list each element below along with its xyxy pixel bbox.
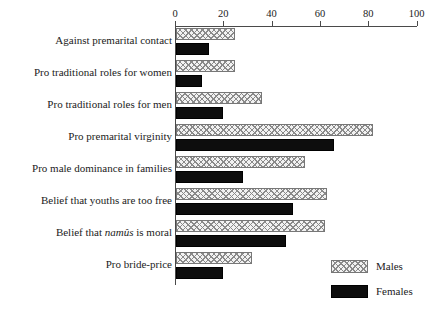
- legend-swatch-males-icon: [331, 260, 368, 273]
- bar-females: [176, 43, 209, 55]
- bar-males: [176, 156, 305, 168]
- bar-group: Belief that namûs is moral: [0, 218, 426, 250]
- category-label: Pro male dominance in families: [0, 161, 172, 175]
- bar-group: Belief that youths are too free: [0, 186, 426, 218]
- category-label: Pro traditional roles for women: [0, 65, 172, 79]
- x-tick-label-0: 0: [172, 8, 177, 20]
- bar-females: [176, 75, 202, 87]
- category-label: Belief that namûs is moral: [0, 225, 172, 239]
- x-tick-label-60: 60: [315, 8, 326, 20]
- bar-group: Pro premarital virginity: [0, 122, 426, 154]
- x-tick-label-20: 20: [218, 8, 229, 20]
- bar-males: [176, 92, 262, 104]
- bar-females: [176, 203, 293, 215]
- category-label: Pro bride-price: [0, 257, 172, 271]
- x-tick-label-40: 40: [266, 8, 277, 20]
- bar-females: [176, 107, 223, 119]
- x-tick-label-80: 80: [363, 8, 374, 20]
- category-label: Against premarital contact: [0, 33, 172, 47]
- category-label: Belief that youths are too free: [0, 193, 172, 207]
- legend: Males Females: [331, 259, 426, 309]
- legend-item-females: Females: [331, 284, 426, 301]
- category-label: Pro traditional roles for men: [0, 97, 172, 111]
- legend-item-males: Males: [331, 259, 426, 276]
- x-tick-label-100: 100: [409, 8, 425, 20]
- bar-males: [176, 124, 373, 136]
- horizontal-bar-chart: 020406080100 Against premarital contactP…: [0, 0, 426, 312]
- bar-females: [176, 171, 243, 183]
- bar-group: Against premarital contact: [0, 26, 426, 58]
- legend-label-females: Females: [376, 284, 413, 299]
- bar-males: [176, 220, 325, 232]
- plot-area: Against premarital contactPro traditiona…: [0, 26, 426, 284]
- bar-group: Pro traditional roles for women: [0, 58, 426, 90]
- legend-label-males: Males: [376, 259, 403, 274]
- bar-group: Pro male dominance in families: [0, 154, 426, 186]
- bar-females: [176, 139, 334, 151]
- legend-swatch-females-icon: [331, 285, 368, 298]
- bar-males: [176, 28, 235, 40]
- bar-males: [176, 252, 252, 264]
- bar-females: [176, 267, 223, 279]
- bar-females: [176, 235, 286, 247]
- bar-males: [176, 60, 235, 72]
- bar-group: Pro traditional roles for men: [0, 90, 426, 122]
- bar-males: [176, 188, 327, 200]
- category-label: Pro premarital virginity: [0, 129, 172, 143]
